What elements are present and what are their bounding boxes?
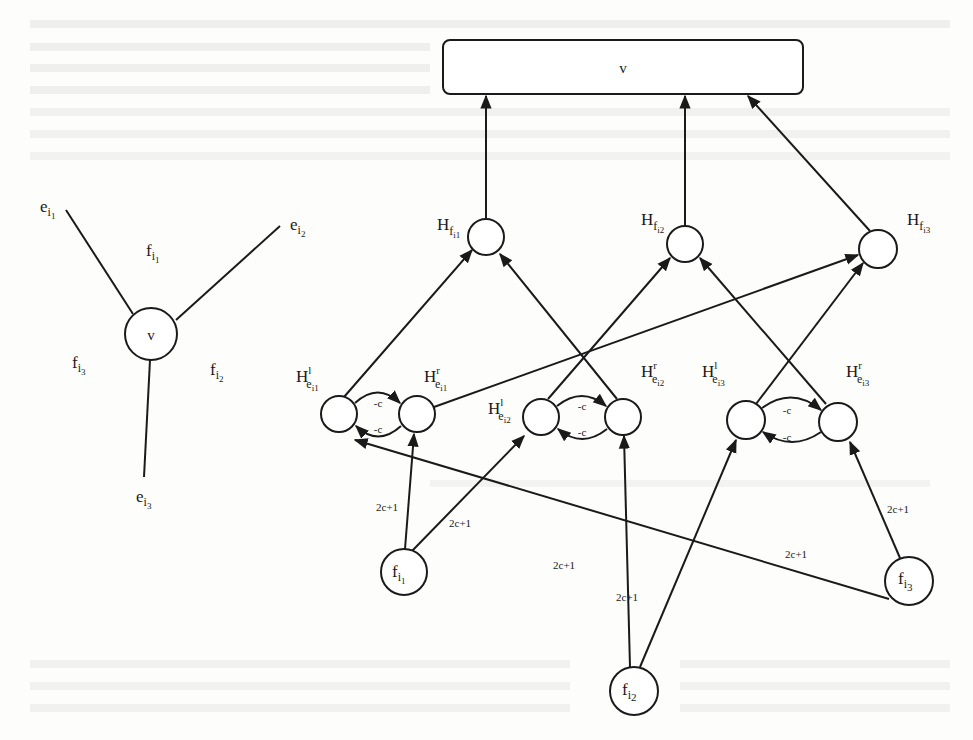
node-he-i1-r [399, 396, 435, 432]
arrow-f-i3-to-he-i3-r [850, 442, 900, 558]
svg-text:Hfi1: Hfi1 [437, 215, 460, 240]
label-he-i3-r: Hrei3 [846, 359, 870, 388]
arrow-he-i3-l-to-hf-i3 [756, 263, 863, 404]
svg-text:ei3: ei3 [136, 487, 152, 511]
gadget-network: v -c -c -c -c -c -c 2c+1 2c+1 2c+ [296, 40, 933, 715]
edge-line-e-i3 [144, 360, 150, 477]
svg-text:Hlei3: Hlei3 [702, 359, 725, 388]
label-face-f-i1: fi1 [146, 241, 160, 265]
edge-line-e-i2 [176, 226, 280, 320]
label-he-i1-l: Hlei1 [296, 364, 319, 393]
weight-f-i2-b: 2c+1 [616, 591, 638, 603]
arrow-f-i1-to-he-i1-r [405, 434, 414, 549]
node-hf-i2 [667, 226, 703, 262]
edge-line-e-i1 [66, 210, 133, 314]
arrow-f-i2-to-he-i3-l [640, 440, 736, 667]
label-e-i1: ei1 [40, 197, 55, 221]
svg-text:Hfi2: Hfi2 [641, 210, 664, 235]
node-hf-i1 [468, 219, 504, 255]
arrow-he-i1-l-to-hf-i1 [344, 250, 472, 397]
sink-label: v [619, 60, 627, 76]
arrow-pair-i3-top [762, 397, 821, 410]
svg-text:Hrei1: Hrei1 [424, 364, 447, 393]
weight-f-i1-a: 2c+1 [376, 501, 398, 513]
svg-text:Hfi3: Hfi3 [907, 210, 931, 235]
weight-f-i3-a: 2c+1 [887, 503, 909, 515]
svg-text:ei2: ei2 [290, 215, 305, 239]
weight-pair-i2-bottom: -c [578, 426, 587, 438]
arrow-pair-i3-bottom [763, 432, 821, 442]
arrow-f-i2-to-he-i2-r [624, 436, 630, 667]
node-he-i2-r [605, 399, 641, 435]
arrow-f-i1-to-he-i2-l [412, 436, 524, 551]
svg-text:fi3: fi3 [72, 353, 86, 377]
node-he-i1-l [321, 396, 357, 432]
label-he-i2-r: Hrei2 [641, 359, 664, 388]
svg-text:Hlei2: Hlei2 [488, 396, 511, 425]
label-e-i2: ei2 [290, 215, 305, 239]
vertex-label: v [147, 327, 155, 343]
arrow-hf-i3-to-v [748, 96, 870, 231]
label-hf-i2: Hfi2 [641, 210, 664, 235]
svg-text:fi2: fi2 [210, 360, 224, 384]
arrow-f-i3-to-he-i1-l [355, 440, 889, 599]
diagram-figure: v ei1 ei2 ei3 fi1 fi2 fi3 v [0, 0, 973, 740]
svg-text:Hlei1: Hlei1 [296, 364, 319, 393]
arrow-he-i1-r-to-hf-i3 [434, 255, 858, 407]
label-hf-i3: Hfi3 [907, 210, 931, 235]
weight-f-i3-long: 2c+1 [785, 548, 807, 560]
svg-text:Hrei2: Hrei2 [641, 359, 664, 388]
weight-f-i1-b: 2c+1 [449, 517, 471, 529]
diagram-canvas: v ei1 ei2 ei3 fi1 fi2 fi3 v [0, 0, 973, 740]
weight-pair-i2-top: -c [578, 400, 587, 412]
label-face-f-i2: fi2 [210, 360, 224, 384]
weight-pair-i3-top: -c [783, 404, 792, 416]
svg-text:ei1: ei1 [40, 197, 55, 221]
label-hf-i1: Hfi1 [437, 215, 460, 240]
weight-pair-i1-bottom: -c [374, 423, 383, 435]
node-he-i3-r [819, 403, 857, 441]
weight-pair-i3-bottom: -c [783, 431, 792, 443]
weight-f-i2-a: 2c+1 [553, 559, 575, 571]
svg-text:Hrei3: Hrei3 [846, 359, 870, 388]
node-hf-i3 [859, 230, 897, 268]
node-he-i2-l [523, 399, 559, 435]
label-e-i3: ei3 [136, 487, 152, 511]
background-bleed-text [30, 20, 950, 712]
label-face-f-i3: fi3 [72, 353, 86, 377]
left-vertex-figure: v ei1 ei2 ei3 fi1 fi2 fi3 [40, 197, 305, 511]
label-he-i2-l: Hlei2 [488, 396, 511, 425]
svg-text:fi1: fi1 [146, 241, 160, 265]
label-he-i3-l: Hlei3 [702, 359, 725, 388]
node-he-i3-l [727, 401, 765, 439]
weight-pair-i1-top: -c [374, 397, 383, 409]
label-he-i1-r: Hrei1 [424, 364, 447, 393]
node-f-i1 [381, 549, 427, 595]
